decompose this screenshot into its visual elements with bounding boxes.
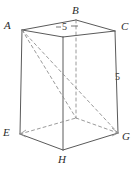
vertex-label-g: G xyxy=(122,131,130,142)
prism-figure: A B C E G H 5 5 xyxy=(0,0,134,174)
prism-diagram xyxy=(0,0,134,174)
dashed-edge-group xyxy=(20,20,118,134)
vertex-label-h: H xyxy=(58,154,66,165)
edge-EH xyxy=(20,134,63,150)
accent-group xyxy=(20,128,118,137)
edge-DC xyxy=(63,31,115,37)
edge-BC xyxy=(76,20,115,31)
measure-label-top: 5 xyxy=(62,22,67,32)
edge-AE xyxy=(20,30,22,134)
diagonal-AF xyxy=(22,30,76,118)
diagonal-AG xyxy=(22,30,118,133)
vertex-label-a: A xyxy=(4,20,11,31)
vertex-label-b: B xyxy=(72,5,79,16)
edge-EF xyxy=(20,118,76,134)
edge-HG xyxy=(63,133,118,150)
edge-FG xyxy=(76,118,118,133)
edge-CG xyxy=(115,31,118,133)
vertex-label-c: C xyxy=(121,21,128,32)
measure-label-right: 5 xyxy=(115,72,120,82)
vertex-label-e: E xyxy=(3,127,10,138)
solid-edge-group xyxy=(20,20,118,150)
edge-AB xyxy=(22,20,76,30)
measure-tick-group xyxy=(56,26,78,27)
